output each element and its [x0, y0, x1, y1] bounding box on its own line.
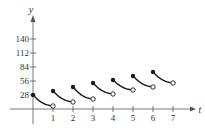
open-endpoint-marker — [171, 81, 175, 85]
closed-endpoint-marker — [51, 89, 55, 93]
closed-endpoint-marker — [131, 74, 135, 78]
y-tick-label: 28 — [20, 90, 30, 100]
closed-endpoint-marker — [151, 70, 155, 74]
open-endpoint-marker — [131, 88, 135, 92]
y-tick-label: 112 — [16, 48, 29, 58]
open-endpoint-marker — [71, 100, 75, 104]
y-axis-label: y — [28, 4, 34, 15]
x-tick-label: 2 — [71, 113, 76, 123]
curve-segments — [33, 72, 171, 106]
x-tick-label: 7 — [171, 113, 176, 123]
decay-curve-segment — [153, 72, 171, 83]
closed-endpoint-marker — [91, 81, 95, 85]
tick-marks: 1234567285684112140 — [16, 34, 176, 123]
open-endpoint-marker — [111, 92, 115, 96]
closed-endpoint-marker — [71, 85, 75, 89]
open-endpoint-marker — [91, 97, 95, 101]
decay-curve-segment — [93, 83, 111, 94]
y-axis-arrow-icon — [31, 15, 36, 22]
open-endpoint-marker — [51, 104, 55, 108]
decay-curve-segment — [33, 95, 51, 106]
x-tick-label: 5 — [131, 113, 136, 123]
chart-container: 1234567285684112140 y t — [0, 0, 205, 133]
x-tick-label: 1 — [51, 113, 56, 123]
open-endpoint-marker — [151, 85, 155, 89]
axes — [10, 15, 196, 124]
decay-curve-segment — [53, 91, 71, 102]
y-tick-label: 56 — [20, 76, 30, 86]
y-tick-label: 84 — [20, 62, 30, 72]
closed-endpoint-marker — [31, 93, 35, 97]
x-tick-label: 3 — [91, 113, 96, 123]
x-axis-arrow-icon — [190, 107, 196, 112]
x-tick-label: 6 — [151, 113, 156, 123]
x-axis-label: t — [199, 104, 202, 115]
decay-curve-segment — [113, 80, 131, 90]
endpoint-markers — [31, 70, 175, 108]
x-tick-label: 4 — [111, 113, 116, 123]
piecewise-decay-chart: 1234567285684112140 y t — [0, 0, 205, 133]
decay-curve-segment — [133, 76, 151, 87]
closed-endpoint-marker — [111, 78, 115, 82]
decay-curve-segment — [73, 87, 91, 99]
y-tick-label: 140 — [16, 34, 30, 44]
